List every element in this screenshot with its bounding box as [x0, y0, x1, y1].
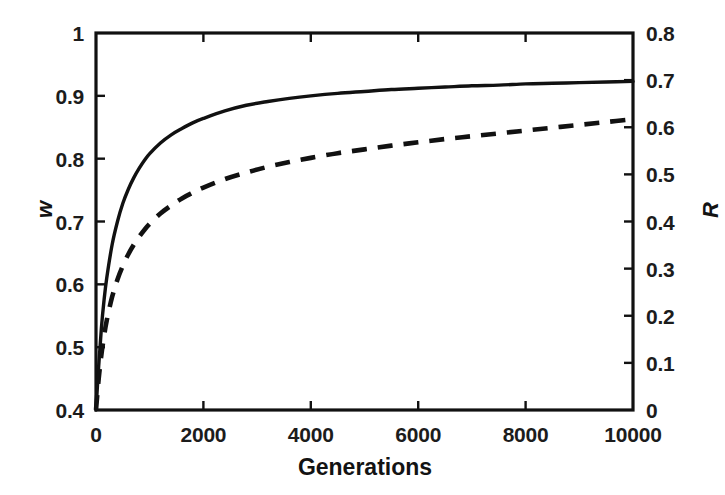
y-tick-label-left: 0.8: [55, 148, 84, 169]
y-tick-label-left: 1: [73, 23, 84, 44]
data-series: [96, 81, 633, 410]
y-tick-label-left: 0.9: [55, 85, 84, 106]
y-tick-label-right: 0.6: [646, 117, 675, 138]
plot-axes: [96, 33, 633, 410]
plot-frame: [96, 33, 633, 410]
series-line-w: [96, 81, 633, 410]
y-tick-label-left: 0.7: [55, 211, 84, 232]
y-tick-label-right: 0.5: [646, 164, 675, 185]
y-tick-label-right: 0.8: [646, 23, 675, 44]
chart-canvas: [0, 0, 725, 495]
tick-marks: [96, 33, 633, 410]
y-tick-label-left: 0.5: [55, 337, 84, 358]
x-axis-title: Generations: [298, 456, 432, 479]
y-tick-label-left: 0.6: [55, 274, 84, 295]
y-axis-right-title: R: [700, 202, 722, 218]
x-tick-label: 4000: [288, 424, 334, 445]
y-tick-label-right: 0.3: [646, 258, 675, 279]
y-tick-label-right: 0.2: [646, 305, 675, 326]
x-tick-label: 6000: [395, 424, 441, 445]
y-tick-label-left: 0.4: [55, 400, 84, 421]
y-axis-left-title: w: [34, 201, 56, 218]
x-tick-label: 0: [90, 424, 101, 445]
x-tick-label: 8000: [503, 424, 549, 445]
y-tick-label-right: 0.7: [646, 70, 675, 91]
y-tick-label-right: 0: [646, 400, 657, 421]
chart-figure: 02000400060008000100000.40.50.60.70.80.9…: [0, 0, 725, 495]
x-tick-label: 2000: [180, 424, 226, 445]
series-line-r: [96, 119, 633, 410]
x-tick-label: 10000: [604, 424, 661, 445]
y-tick-label-right: 0.1: [646, 352, 675, 373]
y-tick-label-right: 0.4: [646, 211, 675, 232]
